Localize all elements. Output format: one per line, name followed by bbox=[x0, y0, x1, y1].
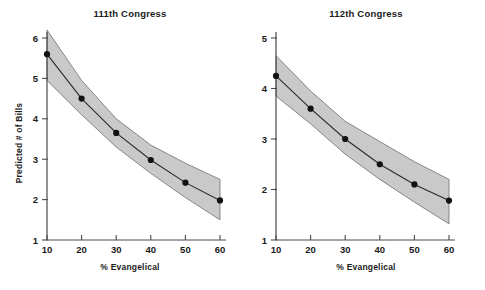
panel-111th-congress: 111th Congress Predicted # of Bills % Ev… bbox=[0, 0, 242, 290]
y-tick-label: 4 bbox=[262, 83, 268, 94]
x-tick-label: 20 bbox=[76, 244, 87, 255]
panel-112th-congress: 112th Congress % Evangelical 12345102030… bbox=[243, 0, 485, 290]
y-tick-label: 4 bbox=[33, 113, 39, 124]
x-tick-label: 10 bbox=[271, 244, 282, 255]
data-point bbox=[79, 96, 85, 102]
y-tick-label: 6 bbox=[33, 33, 38, 44]
confidence-band bbox=[276, 56, 449, 224]
data-point bbox=[182, 180, 188, 186]
x-tick-label: 60 bbox=[444, 244, 455, 255]
x-tick-label: 10 bbox=[42, 244, 53, 255]
x-tick-label: 50 bbox=[180, 244, 191, 255]
data-point bbox=[113, 130, 119, 136]
figure-two-panel-chart: 111th Congress Predicted # of Bills % Ev… bbox=[0, 0, 485, 290]
y-tick-label: 1 bbox=[262, 235, 268, 246]
plot-area: 12345102030405060 bbox=[243, 0, 485, 290]
y-tick-label: 3 bbox=[33, 154, 38, 165]
x-tick-label: 40 bbox=[146, 244, 157, 255]
data-point bbox=[446, 198, 452, 204]
x-tick-label: 40 bbox=[375, 244, 386, 255]
y-tick-label: 2 bbox=[262, 184, 267, 195]
x-tick-label: 30 bbox=[340, 244, 351, 255]
x-tick-label: 50 bbox=[409, 244, 420, 255]
data-point bbox=[411, 181, 417, 187]
x-tick-label: 60 bbox=[215, 244, 226, 255]
data-point bbox=[44, 51, 50, 57]
plot-area: 123456102030405060 bbox=[0, 0, 242, 290]
y-tick-label: 2 bbox=[33, 194, 38, 205]
x-tick-label: 20 bbox=[305, 244, 316, 255]
y-tick-label: 1 bbox=[33, 235, 39, 246]
y-tick-label: 5 bbox=[262, 33, 268, 44]
y-tick-label: 3 bbox=[262, 134, 267, 145]
x-tick-label: 30 bbox=[111, 244, 122, 255]
confidence-band bbox=[47, 30, 220, 220]
data-point bbox=[217, 197, 223, 203]
data-point bbox=[377, 161, 383, 167]
data-point bbox=[342, 136, 348, 142]
data-point bbox=[148, 157, 154, 163]
data-point bbox=[273, 73, 279, 79]
y-tick-label: 5 bbox=[33, 73, 39, 84]
data-point bbox=[308, 106, 314, 112]
